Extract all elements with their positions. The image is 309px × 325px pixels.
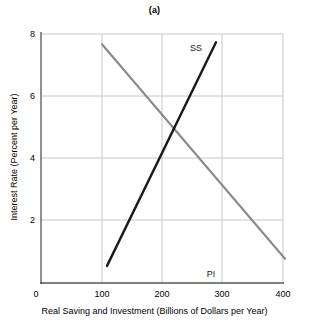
y-tick-label-6: 6: [30, 91, 35, 101]
pi-curve-label: PI: [207, 269, 216, 279]
y-tick-label-4: 4: [30, 153, 35, 163]
plot-area: 8 6 4 2 0 100 200 300 400 SS PI: [0, 0, 309, 325]
x-tick-label-100: 100: [94, 289, 109, 299]
x-tick-label-400: 400: [275, 289, 290, 299]
y-tick-label-2: 2: [30, 215, 35, 225]
pi-curve: [102, 44, 285, 259]
x-tick-label-0: 0: [33, 289, 38, 299]
ss-curve-label: SS: [190, 43, 202, 53]
x-tick-label-200: 200: [154, 289, 169, 299]
y-tick-label-8: 8: [30, 29, 35, 39]
x-tick-label-300: 300: [214, 289, 229, 299]
chart-figure: (a) Interest Rate (Percent per Year) Rea…: [0, 0, 309, 325]
